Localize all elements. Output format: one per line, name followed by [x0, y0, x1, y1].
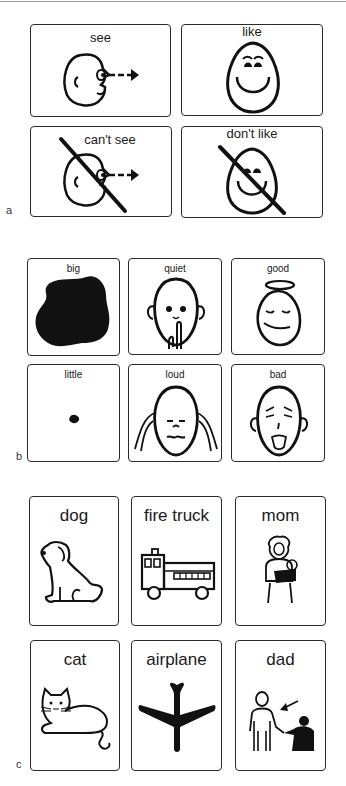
card-label: good [232, 263, 324, 274]
card-label: cat [31, 650, 119, 670]
card-label: mom [236, 506, 325, 526]
symbol-card-dog: dog [29, 496, 119, 626]
symbol-card-good: good [231, 258, 325, 355]
symbol-card-bad: bad [231, 364, 325, 462]
symbol-card-cant-see: can't see [30, 126, 172, 217]
symbol-card-dad: dad [235, 640, 326, 771]
symbol-card-loud: loud [128, 364, 222, 462]
symbol-card-like: like [181, 24, 323, 116]
card-label: little [28, 369, 119, 380]
card-label: can't see [49, 132, 171, 147]
card-label: see [31, 30, 170, 45]
card-label: don't like [182, 126, 322, 141]
symbol-card-fire-truck: fire truck [131, 496, 222, 626]
symbol-card-little: little [27, 364, 120, 462]
card-label: dad [236, 650, 325, 670]
top-rule [0, 1, 346, 2]
symbol-card-airplane: airplane [131, 640, 222, 771]
panel-letter-b: b [16, 450, 22, 462]
panel-letter-a: a [6, 204, 12, 216]
card-label: big [28, 263, 119, 274]
card-label: fire truck [132, 506, 221, 526]
card-label: dog [30, 506, 118, 526]
card-label: bad [232, 369, 324, 380]
card-label: airplane [132, 650, 221, 670]
symbol-card-see: see [30, 24, 171, 117]
symbol-card-dont-like: don't like [181, 126, 323, 218]
card-label: quiet [129, 263, 221, 274]
symbol-card-cat: cat [30, 640, 120, 771]
panel-letter-c: c [16, 758, 22, 770]
symbol-card-quiet: quiet [128, 258, 222, 355]
card-label: loud [129, 369, 221, 380]
symbol-card-mom: mom [235, 496, 326, 626]
symbol-card-big: big [27, 258, 120, 356]
card-label: like [182, 24, 322, 39]
